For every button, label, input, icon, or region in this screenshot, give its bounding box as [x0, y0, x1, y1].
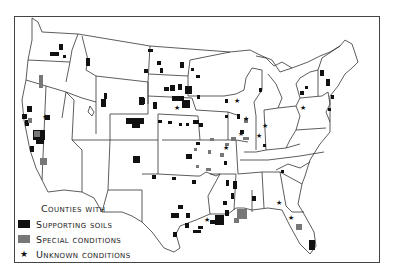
- svg-text:★: ★: [42, 113, 48, 121]
- legend-item-unknown-conditions: ★ Unknown conditions: [18, 248, 131, 260]
- svg-text:★: ★: [238, 130, 244, 138]
- svg-text:★: ★: [256, 132, 262, 140]
- legend-title: Counties with: [41, 203, 105, 214]
- star-icon: ★: [18, 249, 30, 259]
- legend-label: Unknown conditions: [36, 249, 131, 260]
- legend-label: Special conditions: [36, 234, 121, 245]
- legend-label: Supporting soils: [36, 219, 112, 230]
- svg-text:★: ★: [276, 199, 282, 207]
- svg-text:★: ★: [288, 214, 294, 222]
- supporting-soils-swatch: [18, 220, 30, 228]
- svg-text:★: ★: [204, 216, 210, 224]
- svg-text:★: ★: [243, 115, 249, 123]
- svg-text:★: ★: [300, 104, 306, 112]
- svg-text:★: ★: [262, 122, 268, 130]
- svg-text:★: ★: [234, 97, 240, 105]
- special-conditions-swatch: [18, 235, 30, 243]
- svg-text:★: ★: [174, 104, 180, 112]
- legend-item-supporting-soils: Supporting soils: [18, 218, 112, 230]
- legend-item-special-conditions: Special conditions: [18, 233, 121, 245]
- svg-text:★: ★: [223, 144, 229, 152]
